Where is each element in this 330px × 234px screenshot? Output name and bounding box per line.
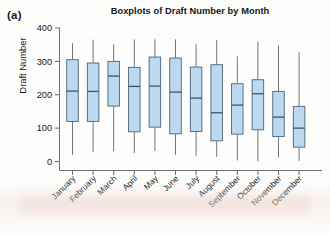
boxplot-november	[273, 45, 285, 157]
box-iqr	[232, 84, 244, 134]
boxplot-april	[129, 39, 141, 153]
y-tick-label: 0	[47, 157, 52, 167]
x-axis-ticks	[73, 171, 300, 176]
box-iqr	[87, 63, 99, 121]
box-iqr	[273, 91, 285, 136]
box-series	[67, 39, 305, 161]
y-tick-label: 400	[37, 23, 52, 33]
box-iqr	[129, 67, 141, 131]
x-tick-label: March	[95, 173, 119, 197]
boxplot-february	[87, 40, 99, 152]
boxplot-july	[190, 44, 202, 156]
y-tick-label: 200	[37, 90, 52, 100]
box-iqr	[170, 58, 182, 134]
box-iqr	[211, 65, 223, 141]
x-axis-labels: JanuaryFebruaryMarchAprilMayJuneJulyAugu…	[49, 173, 304, 210]
boxplot-march	[108, 44, 120, 151]
boxplot-january	[67, 43, 79, 155]
x-tick-label: April	[120, 173, 139, 192]
box-iqr	[149, 57, 161, 127]
figure-panel: (a) Boxplots of Draft Number by Month Dr…	[0, 0, 330, 234]
x-tick-label: May	[142, 173, 161, 192]
boxplot-june	[170, 39, 182, 154]
y-axis-ticks: 0100200300400	[37, 23, 60, 167]
box-iqr	[252, 80, 264, 130]
box-iqr	[293, 106, 305, 147]
y-tick-label: 100	[37, 123, 52, 133]
boxplot-september	[232, 56, 244, 160]
boxplot-october	[252, 42, 264, 161]
boxplot-august	[211, 40, 223, 157]
box-iqr	[190, 67, 202, 131]
box-iqr	[108, 61, 120, 106]
boxplot-may	[149, 39, 161, 151]
y-tick-label: 300	[37, 57, 52, 67]
x-tick-label: June	[160, 173, 180, 193]
boxplot-december	[293, 52, 305, 161]
boxplot-canvas: 0100200300400 JanuaryFebruaryMarchAprilM…	[0, 0, 330, 234]
